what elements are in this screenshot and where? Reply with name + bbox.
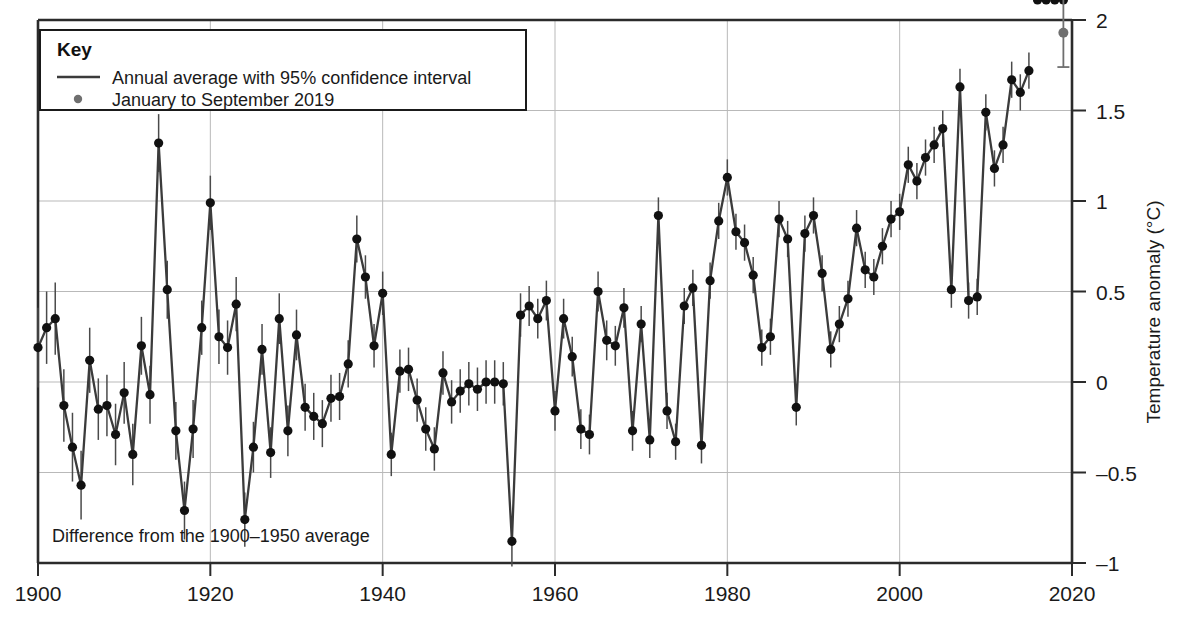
x-tick-label: 1920 xyxy=(187,582,234,605)
y-tick-label: 0 xyxy=(1096,371,1108,394)
x-tick-label: 2020 xyxy=(1049,582,1096,605)
x-tick-label: 1940 xyxy=(359,582,406,605)
partial-year-marker xyxy=(1057,0,1069,67)
y-tick-label: 1.5 xyxy=(1096,100,1125,123)
y-tick-label: –0.5 xyxy=(1096,462,1137,485)
temperature-anomaly-chart: 1900192019401960198020002020 –1–0.500.51… xyxy=(0,0,1188,624)
x-axis-ticks xyxy=(38,563,1072,576)
x-tick-label: 1900 xyxy=(15,582,62,605)
legend-entry-dot-label: January to September 2019 xyxy=(112,90,334,110)
y-tick-label: 2 xyxy=(1096,9,1108,32)
x-axis-tick-labels: 1900192019401960198020002020 xyxy=(15,582,1096,605)
y-tick-label: –1 xyxy=(1096,552,1119,575)
y-tick-label: 0.5 xyxy=(1096,281,1125,304)
x-tick-label: 2000 xyxy=(876,582,923,605)
y-tick-label: 1 xyxy=(1096,190,1108,213)
y-axis-label: Temperature anomaly (°C) xyxy=(1143,200,1164,423)
chart-canvas: 1900192019401960198020002020 –1–0.500.51… xyxy=(0,0,1188,624)
x-tick-label: 1960 xyxy=(532,582,579,605)
chart-note: Difference from the 1900–1950 average xyxy=(52,526,370,546)
y-axis-ticks xyxy=(1072,20,1086,563)
x-tick-label: 1980 xyxy=(704,582,751,605)
legend: Key Annual average with 95% confidence i… xyxy=(40,30,526,110)
y-axis-tick-labels: –1–0.500.511.52 xyxy=(1096,9,1137,575)
legend-dot-swatch xyxy=(74,95,82,103)
legend-title: Key xyxy=(57,39,92,60)
legend-entry-line-label: Annual average with 95% confidence inter… xyxy=(112,68,471,88)
